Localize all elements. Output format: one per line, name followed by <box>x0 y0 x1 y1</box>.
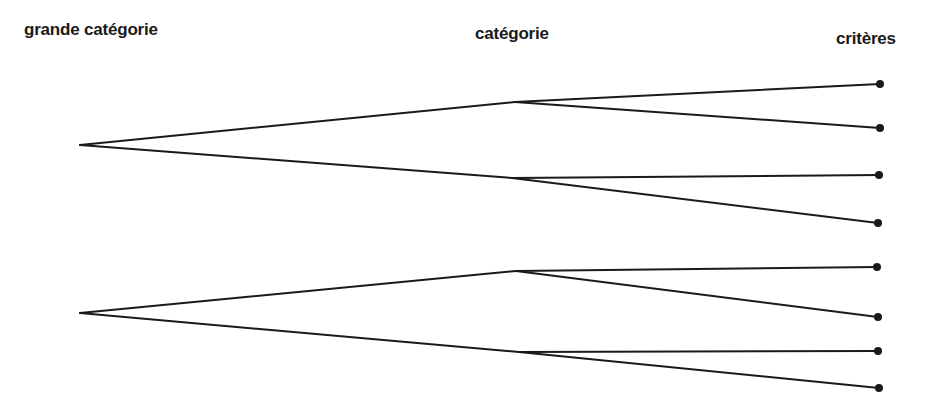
edge-grande-categorie-to-categorie <box>80 313 519 352</box>
edge-grande-categorie-to-categorie <box>80 102 515 145</box>
critere-leaf-node <box>874 313 882 321</box>
critere-leaf-node <box>876 124 884 132</box>
edge-categorie-to-critere <box>516 271 878 317</box>
critere-leaf-node <box>874 219 882 227</box>
edge-categorie-to-critere <box>512 175 879 178</box>
hierarchy-tree-diagram <box>0 0 939 401</box>
critere-leaf-node <box>876 80 884 88</box>
critere-leaf-node <box>873 263 881 271</box>
edge-categorie-to-critere <box>519 352 879 388</box>
edge-grande-categorie-to-categorie <box>80 145 512 178</box>
edge-categorie-to-critere <box>519 351 878 352</box>
edge-categorie-to-critere <box>515 84 880 102</box>
edge-grande-categorie-to-categorie <box>80 271 516 313</box>
edge-categorie-to-critere <box>515 102 880 128</box>
edge-categorie-to-critere <box>512 178 878 223</box>
edge-categorie-to-critere <box>516 267 877 271</box>
critere-leaf-node <box>875 384 883 392</box>
critere-leaf-node <box>874 347 882 355</box>
critere-leaf-node <box>875 171 883 179</box>
